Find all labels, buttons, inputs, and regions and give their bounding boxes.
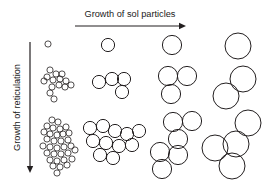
diagram-canvas: Growth of sol particles Growth of reticu… xyxy=(0,0,273,186)
vertical-axis-label: Growth of reticulation xyxy=(12,64,22,151)
background xyxy=(0,0,273,186)
sol-gel-growth-diagram: Growth of sol particles Growth of reticu… xyxy=(0,0,273,186)
horizontal-axis-label: Growth of sol particles xyxy=(85,9,176,19)
